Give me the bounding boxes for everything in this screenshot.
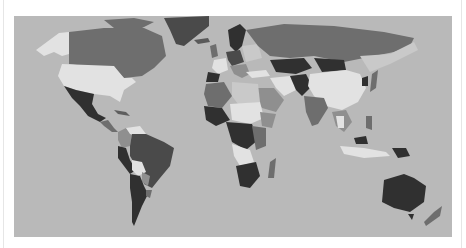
world-map-svg — [14, 16, 452, 237]
left-border-line — [3, 0, 4, 248]
world-map[interactable] — [14, 16, 452, 237]
right-border-line — [461, 0, 462, 248]
country-philippines[interactable] — [366, 116, 372, 130]
country-libya-egypt[interactable] — [232, 82, 260, 104]
